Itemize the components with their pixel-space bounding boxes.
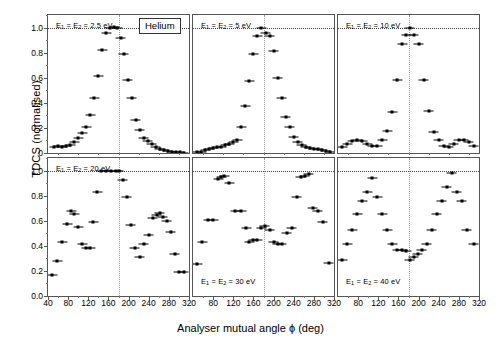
x-tick-minor [223,153,224,155]
data-point [245,226,248,229]
data-point [228,143,231,146]
x-tick-label: 280 [452,299,466,308]
data-point [381,139,384,142]
x-tick-label: 160 [101,299,115,308]
data-point [173,252,176,255]
data-point [182,270,185,273]
data-point [81,131,84,134]
y-tick-minor [46,208,48,209]
x-tick-minor [324,153,325,155]
data-point [138,128,141,131]
data-point [77,136,80,139]
data-point [158,212,161,215]
x-tick-minor [98,153,99,155]
data-point [122,52,125,55]
data-point [240,125,243,128]
data-point [97,75,100,78]
data-point [341,258,344,261]
y-tick-minor [46,233,48,234]
data-point [472,242,475,245]
y-tick-label: 0.6 [31,74,43,83]
data-point [366,190,369,193]
data-point [51,273,54,276]
plot-area-p25 [48,15,189,153]
y-tick-label: 0.8 [31,192,43,201]
x-tick-minor [449,153,450,155]
data-point [288,126,291,129]
x-tick-minor [159,153,160,155]
data-point [212,219,215,222]
data-point [416,252,419,255]
y-tick-minor [46,140,48,141]
x-tick-label: 200 [411,299,425,308]
x-tick-minor [98,296,99,298]
data-point [327,262,330,265]
y-tick [44,246,48,247]
data-point [401,42,404,45]
panel-caption-p20: E1 = E2 = 20 eV [56,164,110,173]
data-point [244,104,247,107]
y-tick-label: 0.2 [31,267,43,276]
x-tick-minor [449,296,450,298]
x-tick-label: 200 [266,299,280,308]
y-tick-label: 1.0 [31,167,43,176]
data-point [351,228,354,231]
x-tick-label: 240 [432,299,446,308]
x-tick-minor [388,153,389,155]
data-point [435,213,438,216]
x-tick-minor [119,153,120,155]
y-tick [44,153,48,154]
x-tick-minor [409,296,410,298]
data-point [201,241,204,244]
x-tick-minor [243,296,244,298]
panel-caption-p30: E1 = E2 = 30 eV [201,277,255,286]
data-point [430,228,433,231]
data-point [425,242,428,245]
data-point [316,210,319,213]
x-tick-label: 240 [142,299,156,308]
data-point [467,140,470,143]
data-point [386,130,389,133]
x-tick-minor [348,153,349,155]
data-point [142,136,145,139]
x-tick-label: 80 [208,299,217,308]
x-tick-minor [139,153,140,155]
x-tick-label: 160 [391,299,405,308]
y-tick-label: 0 [38,149,43,158]
panel-p5: E1 = E2 = 5 eV [192,14,335,154]
y-tick-minor [46,158,48,159]
data-point [412,34,415,37]
x-tick-label: 280 [162,299,176,308]
x-tick-minor [469,296,470,298]
panel-p40: E1 = E2 = 40 eV80120160200240280320 [337,157,480,297]
data-point [96,190,99,193]
data-point [228,182,231,185]
plot-area-p30 [193,158,334,296]
y-tick [44,221,48,222]
y-tick-label: 0.6 [31,217,43,226]
data-point [256,238,259,241]
x-tick-minor [304,296,305,298]
data-point [460,200,463,203]
y-tick [44,78,48,79]
panel-caption-p5: E1 = E2 = 5 eV [201,21,251,30]
reference-line-vertical [409,15,410,153]
data-point [420,248,423,251]
data-point [151,216,154,219]
data-point [346,242,349,245]
data-point [121,178,124,181]
panel-caption-p40: E1 = E2 = 40 eV [346,277,400,286]
x-tick-minor [368,153,369,155]
x-tick-minor [119,296,120,298]
data-point [268,228,271,231]
data-point [356,213,359,216]
data-point [311,207,314,210]
x-tick-minor [348,296,349,298]
y-tick-label: 0.0 [31,292,43,301]
x-tick-label: 280 [307,299,321,308]
data-point [432,130,435,133]
data-point [452,142,455,145]
y-tick-label: 0.8 [31,49,43,58]
y-tick-minor [46,283,48,284]
data-point [386,228,389,231]
